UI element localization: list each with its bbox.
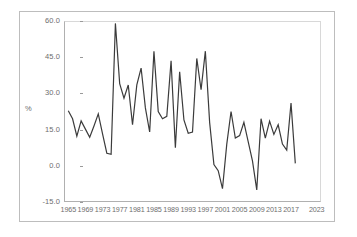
x-tick-label: 2023 xyxy=(309,205,325,215)
chart-figure: % 60.045.030.015.00.0-15.0 1965196919731… xyxy=(0,0,357,237)
x-tick-label: 2009 xyxy=(249,205,265,215)
x-tick-label: 2005 xyxy=(232,205,248,215)
x-tick-label: 2017 xyxy=(283,205,299,215)
x-tick-label: 2013 xyxy=(266,205,282,215)
x-tick-label: 1977 xyxy=(112,205,128,215)
x-tick-label: 1993 xyxy=(180,205,196,215)
x-tick-label: 1965 xyxy=(60,205,76,215)
y-tick-mark xyxy=(80,202,83,203)
y-tick-label: -15.0 xyxy=(20,198,60,206)
y-tick-label: 30.0 xyxy=(20,89,60,97)
x-tick-label: 1997 xyxy=(198,205,214,215)
x-tick-label: 1981 xyxy=(129,205,145,215)
series-1-line xyxy=(68,23,295,190)
y-tick-label: 0.0 xyxy=(20,162,60,170)
x-tick-label: 1985 xyxy=(146,205,162,215)
x-tick-label: 1989 xyxy=(163,205,179,215)
y-tick-label: 15.0 xyxy=(20,126,60,134)
x-axis-ticks: 1965196919731977198119851989199319972001… xyxy=(64,205,326,217)
series-line-chart xyxy=(64,21,321,202)
y-axis-ticks: 60.045.030.015.00.0-15.0 xyxy=(18,21,60,202)
plot-wrapper: % 60.045.030.015.00.0-15.0 1965196919731… xyxy=(0,0,357,237)
x-tick-label: 1973 xyxy=(95,205,111,215)
x-tick-label: 2001 xyxy=(215,205,231,215)
y-tick-label: 60.0 xyxy=(20,17,60,25)
x-tick-label: 1969 xyxy=(78,205,94,215)
y-tick-label: 45.0 xyxy=(20,53,60,61)
